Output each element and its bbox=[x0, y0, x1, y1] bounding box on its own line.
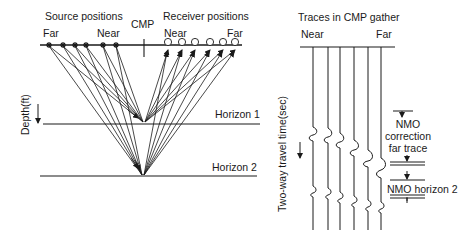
receiver-circle-icon bbox=[191, 38, 198, 45]
traces-near-label: Near bbox=[301, 28, 324, 40]
receiver-circle-icon bbox=[231, 38, 238, 45]
traces-title: Traces in CMP gather bbox=[298, 11, 400, 23]
trace-2 bbox=[324, 47, 332, 230]
source-asterisk-icon bbox=[100, 42, 106, 48]
source-asterisk-icon bbox=[46, 42, 52, 48]
trace-1 bbox=[309, 47, 317, 230]
far-trace-label: far trace bbox=[380, 142, 436, 154]
source-asterisk-icon bbox=[113, 42, 119, 48]
downgoing-arrowheads bbox=[128, 110, 140, 170]
receiver-far-label: Far bbox=[227, 27, 243, 39]
depth-axis-label: Depth(ft) bbox=[19, 94, 31, 135]
nmo-horizon-2-label: NMO horizon 2 bbox=[387, 183, 458, 195]
horizon-1-label: Horizon 1 bbox=[215, 108, 260, 120]
nmo-label: NMO bbox=[384, 118, 432, 130]
source-asterisk-icon bbox=[72, 42, 78, 48]
trace-4 bbox=[350, 47, 358, 230]
time-axis-label: Two-way travel time(sec) bbox=[276, 96, 288, 212]
horizon-1-raypaths bbox=[49, 46, 235, 122]
source-positions-label: Source positions bbox=[45, 10, 123, 22]
receiver-circle-icon bbox=[206, 38, 213, 45]
receiver-circle-icon bbox=[164, 38, 171, 45]
source-far-label: Far bbox=[43, 27, 59, 39]
receiver-near-label: Near bbox=[164, 27, 187, 39]
trace-5 bbox=[364, 47, 373, 230]
source-near-label: Near bbox=[97, 27, 120, 39]
traces-far-label: Far bbox=[376, 28, 392, 40]
receiver-positions-label: Receiver positions bbox=[163, 10, 249, 22]
source-asterisk-icon bbox=[60, 42, 66, 48]
trace-3 bbox=[336, 47, 344, 230]
receiver-circle-icon bbox=[219, 38, 226, 45]
nmo-correction-label: correction bbox=[380, 130, 436, 142]
horizon-2-label: Horizon 2 bbox=[212, 161, 257, 173]
cmp-gather-figure: Source positions Far Near CMP Receiver p… bbox=[0, 0, 474, 234]
receiver-circle-icon bbox=[178, 38, 185, 45]
cmp-label: CMP bbox=[131, 18, 154, 30]
source-asterisk-icon bbox=[83, 42, 89, 48]
